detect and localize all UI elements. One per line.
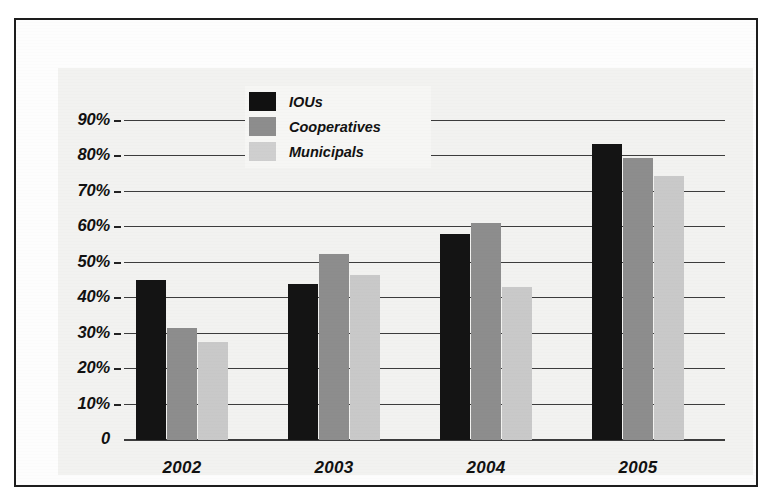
legend-item-1: Cooperatives [249,114,427,139]
x-axis-label-2002: 2002 [136,458,228,478]
legend-item-2: Municipals [249,139,427,164]
bar-ious-2004[interactable] [440,234,470,440]
bar-group-inner: 2004 [440,114,532,440]
bar-cooperatives-2003[interactable] [319,254,349,440]
light-gray-swatch-icon [249,142,276,161]
bar-municipals-2005[interactable] [654,176,684,440]
bar-municipals-2002[interactable] [198,342,228,440]
legend-label-2: Municipals [289,144,364,160]
bar-group-2005: 2005 [592,114,684,440]
chart-plot-panel: 90%80%70%60%50%40%30%20%10%0 20022003200… [58,68,753,475]
black-swatch-icon [249,92,276,111]
chart-page: 90%80%70%60%50%40%30%20%10%0 20022003200… [0,0,773,503]
chart-outer-frame: 90%80%70%60%50%40%30%20%10%0 20022003200… [14,18,758,487]
bar-group-inner: 2002 [136,114,228,440]
bar-municipals-2003[interactable] [350,275,380,440]
bar-ious-2005[interactable] [592,144,622,440]
bar-group-2002: 2002 [136,114,228,440]
bar-group-inner: 2005 [592,114,684,440]
bar-ious-2002[interactable] [136,280,166,440]
legend-label-0: IOUs [289,94,323,110]
x-axis-label-2005: 2005 [592,458,684,478]
legend-label-1: Cooperatives [289,119,381,135]
gray-swatch-icon [249,117,276,136]
bar-cooperatives-2002[interactable] [167,328,197,440]
bar-cooperatives-2005[interactable] [623,158,653,440]
x-axis-label-2004: 2004 [440,458,532,478]
legend-item-0: IOUs [249,89,427,114]
chart-legend: IOUs Cooperatives Municipals [245,86,431,168]
bar-municipals-2004[interactable] [502,287,532,440]
bar-cooperatives-2004[interactable] [471,223,501,440]
x-axis-label-2003: 2003 [288,458,380,478]
bar-group-2004: 2004 [440,114,532,440]
bar-ious-2003[interactable] [288,284,318,440]
